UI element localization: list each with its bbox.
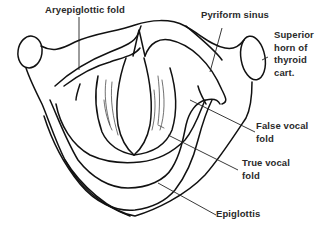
label-true-vocal-fold-line-1: True vocal <box>242 157 290 170</box>
label-aryepiglottic-fold: Aryepiglottic fold <box>45 4 125 17</box>
leader-pyriform <box>210 28 222 72</box>
label-false-vocal-fold-line-1: False vocal <box>256 120 308 133</box>
label-pyriform-sinus: Pyriform sinus <box>201 9 269 22</box>
leader-false-vocal <box>190 100 255 132</box>
left-superior-horn-shape <box>16 34 44 69</box>
leader-epiglottis <box>158 183 216 215</box>
label-superior-horn-line-4: cart. <box>274 67 314 80</box>
label-superior-horn-line-1: Superior <box>274 29 314 42</box>
larynx-diagram: Aryepiglottic fold Pyriform sinus Superi… <box>0 0 327 237</box>
label-superior-horn: Superior horn of thyroid cart. <box>274 29 314 79</box>
label-false-vocal-fold-line-2: fold <box>256 133 308 146</box>
label-true-vocal-fold-line-2: fold <box>242 170 290 183</box>
label-superior-horn-line-2: horn of <box>274 42 314 55</box>
label-false-vocal-fold: False vocal fold <box>256 120 308 145</box>
label-superior-horn-line-3: thyroid <box>274 54 314 67</box>
label-true-vocal-fold: True vocal fold <box>242 157 290 182</box>
label-epiglottis: Epiglottis <box>216 208 260 221</box>
